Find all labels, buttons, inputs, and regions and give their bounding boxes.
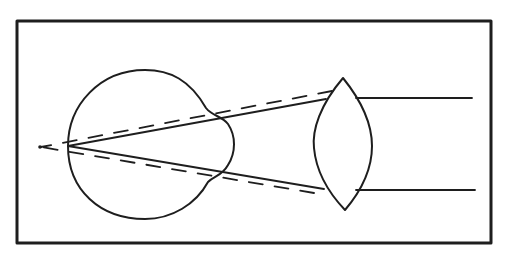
diagram-canvas xyxy=(0,0,505,255)
light-rays-solid xyxy=(68,98,475,190)
diagram-frame xyxy=(17,21,491,243)
hyperopia-correction-diagram xyxy=(0,0,505,255)
solid-ray-2 xyxy=(68,99,326,146)
solid-ray-3 xyxy=(68,146,324,189)
focal-point-marker xyxy=(38,145,42,149)
eyeball-outline xyxy=(68,70,234,219)
dashed-ray-1 xyxy=(41,147,314,193)
